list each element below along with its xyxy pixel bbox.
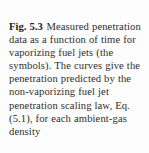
figure-label: Fig. 5.3 — [9, 21, 43, 32]
figure-caption: Fig. 5.3Measured penetration data as a f… — [9, 20, 147, 138]
figure-caption-page: Fig. 5.3Measured penetration data as a f… — [0, 0, 149, 153]
figure-caption-text: Measured penetration data as a function … — [9, 21, 141, 137]
